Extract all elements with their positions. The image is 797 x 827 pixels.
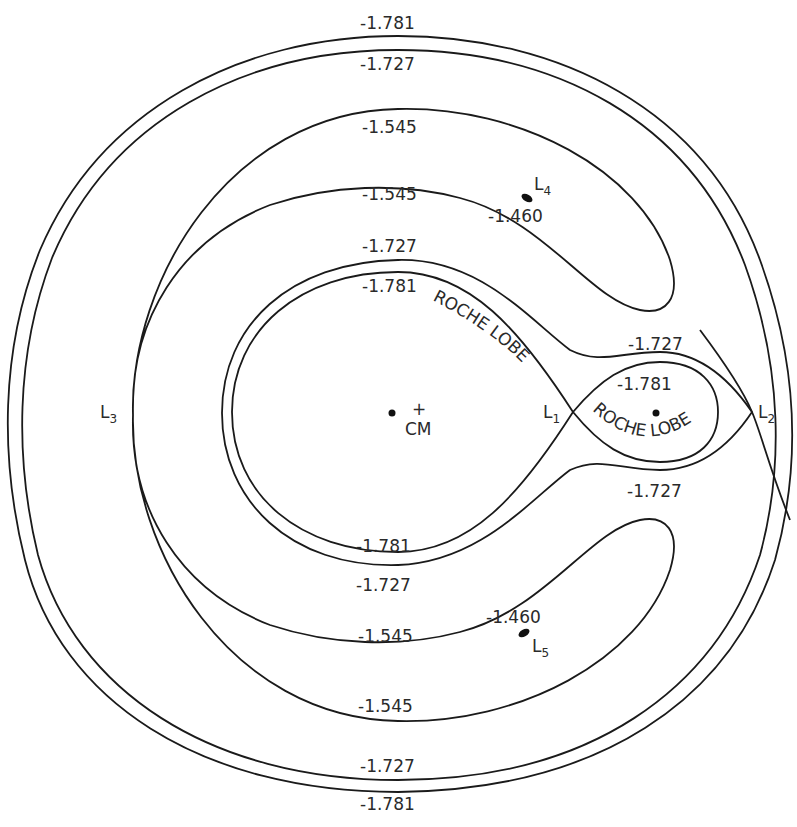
- contour-1545-upper: [133, 109, 674, 415]
- label-bottom-1545-b: -1.545: [358, 696, 413, 716]
- label-l1: L1: [543, 402, 560, 426]
- label-l3: L3: [100, 402, 117, 426]
- label-l4-value: -1.460: [488, 206, 543, 226]
- label-l5: L5: [532, 636, 549, 660]
- roche-lobe-primary-label: ROCHE LOBE: [430, 286, 533, 366]
- label-l4: L4: [534, 174, 551, 198]
- label-secondary-bottom-1727: -1.727: [627, 481, 682, 501]
- l4-point-marker: [520, 192, 534, 204]
- contour-1545-lower: [133, 415, 674, 721]
- label-inner-top-1781: -1.781: [362, 276, 417, 296]
- label-inner-top-1727: -1.727: [362, 236, 417, 256]
- label-secondary-1781: -1.781: [617, 374, 672, 394]
- cm-marker: +: [412, 399, 426, 419]
- secondary-star-dot: [653, 410, 660, 417]
- label-inner-bottom-1781: -1.781: [356, 536, 411, 556]
- label-top-1545-a: -1.545: [362, 117, 417, 137]
- label-inner-bottom-1727: -1.727: [356, 575, 411, 595]
- roche-lobe-secondary-label: ROCHE LOBE: [589, 398, 694, 440]
- label-top-1545-b: -1.545: [362, 184, 417, 204]
- contour-outer-1727: [22, 50, 776, 780]
- roche-potential-diagram: -1.781 -1.727 -1.545 -1.545 -1.727 -1.78…: [0, 0, 797, 827]
- label-outer-top-1781: -1.781: [360, 13, 415, 33]
- l5-point-marker: [517, 627, 531, 639]
- label-outer-top-1727: -1.727: [360, 54, 415, 74]
- primary-star-dot: [389, 410, 396, 417]
- label-secondary-top-1727: -1.727: [628, 334, 683, 354]
- label-bottom-1545-a: -1.545: [358, 626, 413, 646]
- label-outer-bottom-1727: -1.727: [360, 756, 415, 776]
- cm-label: CM: [405, 419, 432, 439]
- label-outer-bottom-1781: -1.781: [360, 794, 415, 814]
- label-l5-value: -1.460: [486, 607, 541, 627]
- label-l2: L2: [758, 402, 775, 426]
